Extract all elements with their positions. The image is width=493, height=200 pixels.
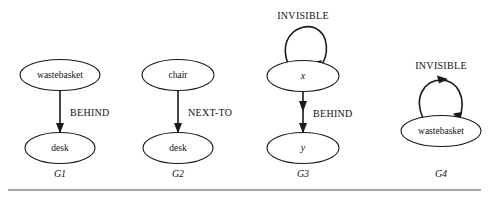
g3-loop-label: INVISIBLE (277, 10, 329, 21)
g4-self-loop-arrowhead-top (437, 76, 448, 84)
g4-node-wastebasket-label: wastebasket (418, 126, 464, 136)
g2-edge-label: NEXT-TO (188, 107, 232, 118)
graph-g3: INVISIBLE x y BEHIND G3 (267, 10, 353, 179)
g3-caption: G3 (297, 168, 309, 179)
g1-edge-arrowhead (56, 123, 64, 134)
g4-loop-label: INVISIBLE (415, 60, 467, 71)
figure-container: wastebasket desk BEHIND G1 chair desk NE… (0, 0, 493, 200)
g1-caption: G1 (54, 168, 66, 179)
g2-caption: G2 (172, 168, 184, 179)
g1-edge-label: BEHIND (70, 107, 110, 118)
graph-g1: wastebasket desk BEHIND G1 (20, 60, 110, 180)
g3-edge-label: BEHIND (313, 108, 353, 119)
graph-g2: chair desk NEXT-TO G2 (142, 60, 232, 180)
g4-caption: G4 (435, 168, 447, 179)
g1-node-desk-label: desk (51, 143, 69, 153)
g1-node-wastebasket-label: wastebasket (37, 70, 83, 80)
g3-edge-arrowhead-mid (299, 101, 307, 112)
g3-node-y-label: y (300, 142, 306, 153)
g3-node-x-label: x (300, 70, 306, 81)
g2-node-chair-label: chair (169, 70, 189, 80)
g2-edge-arrowhead (174, 123, 182, 134)
graph-g4: INVISIBLE wastebasket G4 (401, 60, 481, 179)
graph-figure-svg: wastebasket desk BEHIND G1 chair desk NE… (0, 0, 493, 200)
g2-node-desk-label: desk (169, 143, 187, 153)
g3-edge-arrowhead-end (299, 123, 307, 134)
